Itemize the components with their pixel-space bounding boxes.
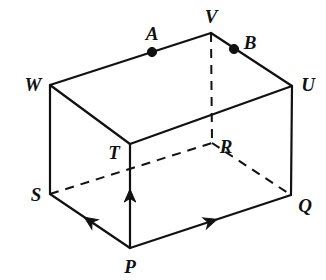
arrow-P-Q [203, 214, 219, 229]
vertex-label-S: S [31, 185, 42, 204]
point-label-B: B [244, 33, 257, 52]
point-label-A: A [146, 24, 159, 43]
vertex-label-W: W [25, 75, 42, 94]
vertex-label-P: P [124, 257, 136, 276]
geometry-figure: PQRSTUVWAB [0, 0, 326, 280]
edges-dashed-group [50, 33, 291, 195]
direction-arrows-group [81, 189, 219, 229]
vertex-label-R: R [220, 137, 233, 156]
vertex-label-Q: Q [298, 196, 312, 215]
marked-points-group [147, 44, 238, 56]
edge-U-Q [291, 86, 292, 195]
arrow-P-S [81, 212, 98, 229]
vertex-label-V: V [205, 7, 218, 26]
vertex-label-T: T [108, 143, 120, 162]
edge-V-R-hidden [211, 33, 212, 143]
marked-point-A [147, 47, 156, 56]
vertex-label-U: U [301, 75, 315, 94]
edge-W-V [50, 33, 211, 85]
edges-solid-group [50, 33, 292, 248]
marked-point-B [229, 44, 238, 53]
edge-W-T [50, 85, 130, 144]
cuboid-diagram-svg [0, 0, 326, 280]
